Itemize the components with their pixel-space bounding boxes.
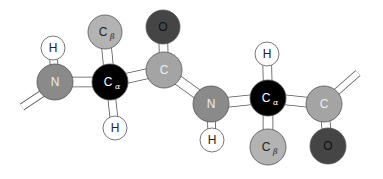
- atom-label: H: [49, 41, 58, 55]
- atom-subscript: α: [115, 82, 121, 91]
- atom-h4: H: [255, 42, 279, 66]
- atom-label: C: [320, 97, 329, 111]
- atom-n2: N: [193, 86, 229, 122]
- atom-label: H: [263, 47, 272, 61]
- atom-n1: N: [37, 64, 73, 100]
- atom-c1: C: [146, 52, 182, 88]
- atom-label: H: [208, 133, 217, 147]
- atom-label: N: [51, 75, 60, 89]
- atom-subscript: α: [273, 98, 279, 107]
- atom-label: O: [323, 139, 332, 153]
- peptide-diagram: HNCβCαHOCNHHCαCβCO: [0, 0, 383, 179]
- atom-label: C: [262, 91, 271, 105]
- atom-label: H: [111, 121, 120, 135]
- atom-h2: H: [103, 116, 127, 140]
- atom-h3: H: [200, 128, 224, 152]
- atom-ca1: Cα: [92, 64, 128, 100]
- atom-subscript: β: [109, 32, 115, 41]
- atom-o2: O: [310, 128, 346, 164]
- atom-c2: C: [306, 86, 342, 122]
- atom-label: C: [262, 140, 271, 154]
- atom-ca2: Cα: [250, 80, 286, 116]
- atom-cb2: Cβ: [250, 129, 286, 165]
- atom-label: N: [207, 97, 216, 111]
- atom-label: C: [160, 63, 169, 77]
- atom-o1: O: [146, 10, 180, 44]
- atom-cb1: Cβ: [88, 15, 122, 49]
- atom-label: C: [104, 75, 113, 89]
- atom-h1: H: [41, 36, 65, 60]
- atom-label: O: [158, 20, 167, 34]
- atom-label: C: [99, 25, 108, 39]
- atom-subscript: β: [272, 147, 278, 156]
